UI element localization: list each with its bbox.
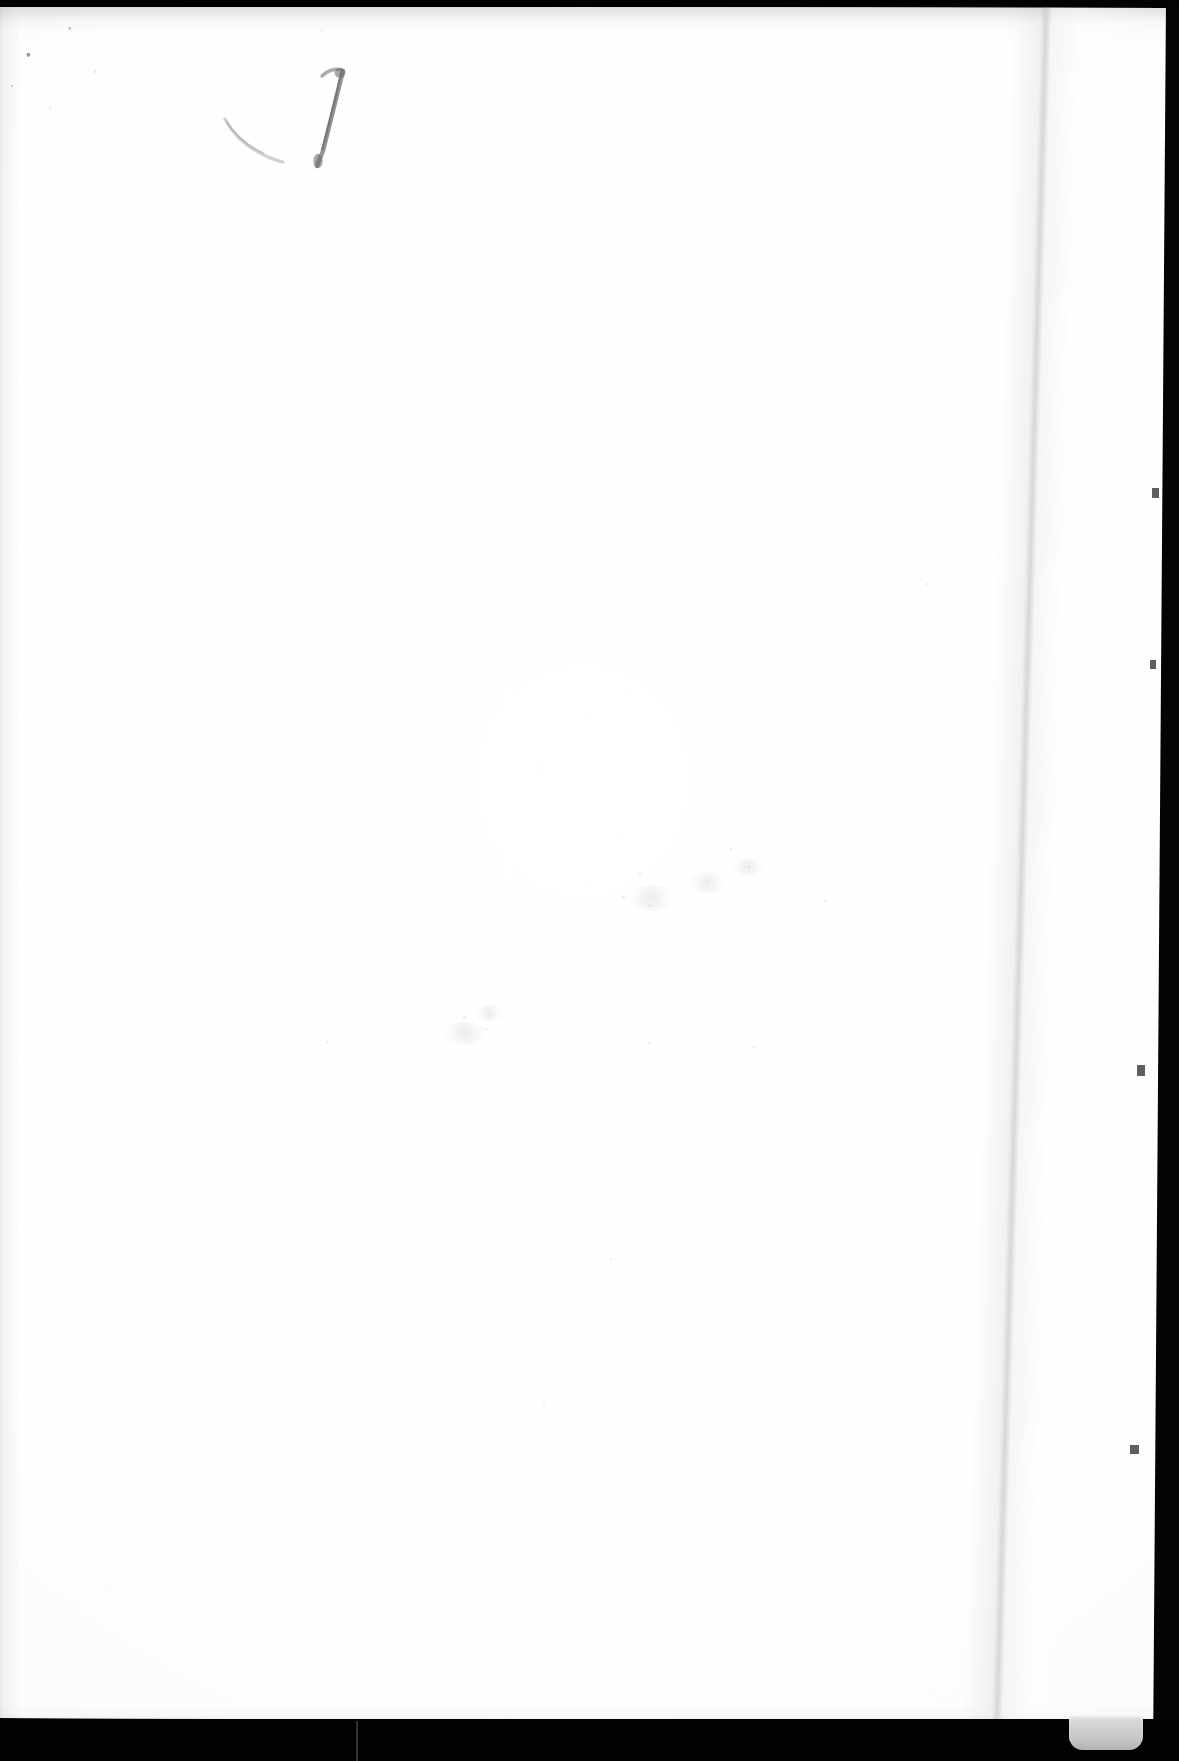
paper-edge-nick [1130, 1445, 1139, 1454]
page-marker-tab [1069, 1716, 1143, 1750]
scanline-artifact [356, 1721, 358, 1761]
scanned-page-viewport [0, 0, 1179, 1761]
scanner-bed-bottom [0, 1719, 1179, 1761]
page-marker-tab-shading [1069, 1716, 1143, 1750]
scanner-bed-top-taper [930, 0, 1179, 6]
paper-edge-nick [1150, 660, 1156, 669]
right-edge-nicks [0, 0, 1179, 1761]
scanner-bed-top [0, 0, 960, 7]
paper-edge-nick [1152, 488, 1159, 498]
paper-edge-nick [1137, 1065, 1145, 1076]
